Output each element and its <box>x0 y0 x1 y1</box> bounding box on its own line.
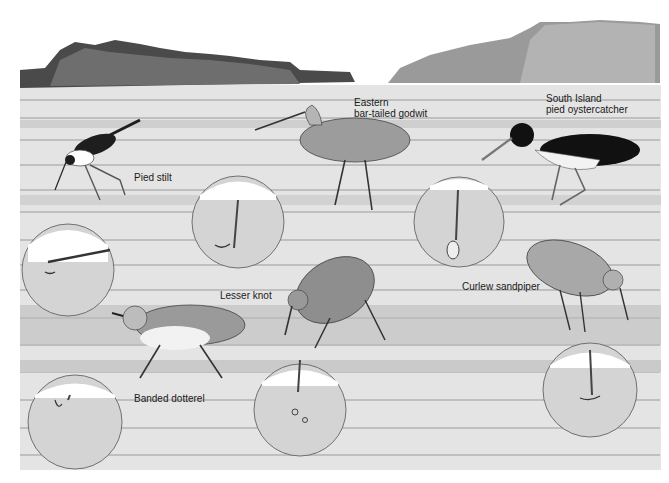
inset-oystercatcher <box>414 177 504 267</box>
label-godwit-line2: bar-tailed godwit <box>354 108 427 119</box>
label-lesser-knot: Lesser knot <box>220 290 272 301</box>
label-curlew-sandpiper: Curlew sandpiper <box>462 281 540 292</box>
inset-banded-dotterel <box>28 375 122 469</box>
label-oystercatcher-line2: pied oystercatcher <box>546 104 628 115</box>
inset-godwit <box>192 176 284 268</box>
label-oystercatcher-line1: South Island <box>546 93 602 104</box>
shorebird-illustration <box>0 0 669 483</box>
label-banded-dotterel: Banded dotterel <box>134 393 205 404</box>
inset-curlew-sandpiper <box>543 343 637 437</box>
label-godwit-line1: Eastern <box>354 97 388 108</box>
inset-stilt <box>22 224 114 316</box>
label-pied-stilt: Pied stilt <box>134 172 172 183</box>
